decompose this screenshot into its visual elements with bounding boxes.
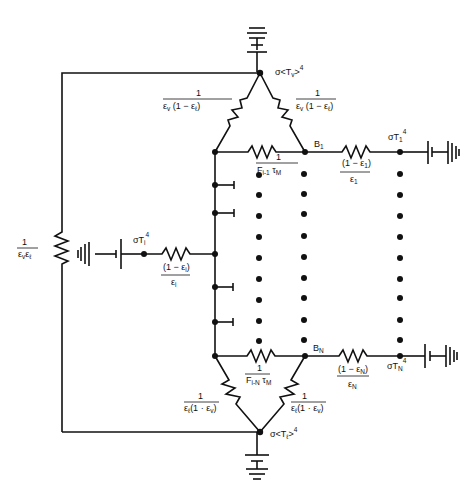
- tn-label: σTN4: [387, 357, 407, 372]
- ellipsis-dot: [397, 192, 403, 198]
- svg-text:1: 1: [302, 391, 307, 401]
- bottom-right-resistor-label: 1 εℓ(1 · εv): [291, 391, 326, 414]
- svg-text:1: 1: [22, 237, 27, 247]
- bn-to-tn-resistor-label: (1 − εN) εN: [337, 364, 369, 390]
- bottom-right-resistor: [260, 356, 305, 432]
- ellipsis-dot: [397, 234, 403, 240]
- top-horizontal-resistor: [215, 146, 305, 158]
- bottom-ground-icon: [245, 432, 269, 479]
- bottom-node-label: σ<Tℓ>4: [270, 426, 298, 440]
- ellipsis-dot: [397, 171, 403, 177]
- bottom-left-resistor: [215, 356, 260, 432]
- svg-text:εℓ(1 · εv): εℓ(1 · εv): [184, 403, 216, 414]
- ellipsis-dot: [301, 317, 307, 323]
- ellipsis-dot: [301, 171, 307, 177]
- left-branch-resistor: [144, 248, 215, 260]
- ellipsis-dot: [397, 317, 403, 323]
- ellipsis-dot: [397, 276, 403, 282]
- ellipsis-dot: [256, 297, 262, 303]
- bottom-left-resistor-label: 1 εℓ(1 · εv): [184, 391, 219, 414]
- svg-text:ε1: ε1: [350, 174, 358, 185]
- b1-label: B1: [314, 139, 324, 150]
- left-vertical-resistor: [55, 220, 68, 432]
- outer-left-wire-top: [62, 73, 260, 220]
- ellipsis-dot: [256, 276, 262, 282]
- svg-text:(1 − εN): (1 − εN): [338, 364, 368, 375]
- svg-text:(1 − εi): (1 − εi): [163, 262, 190, 273]
- top-right-resistor: [260, 73, 305, 152]
- svg-text:εv (1 − εℓ): εv (1 − εℓ): [296, 101, 333, 112]
- top-right-resistor-label: 1 εv (1 − εℓ): [296, 88, 336, 112]
- ellipsis-dot: [301, 233, 307, 239]
- ellipsis-dots: [256, 171, 403, 344]
- ellipsis-dot: [397, 213, 403, 219]
- svg-text:1: 1: [198, 391, 203, 401]
- svg-text:εvεℓ: εvεℓ: [18, 249, 32, 260]
- ellipsis-dot: [301, 275, 307, 281]
- top-horizontal-resistor-label: 1 Fi-1 τM: [256, 152, 298, 176]
- ellipsis-dot: [256, 172, 262, 178]
- ellipsis-dot: [301, 191, 307, 197]
- top-left-resistor: [215, 73, 260, 152]
- ellipsis-dot: [256, 213, 262, 219]
- ellipsis-dot: [301, 337, 307, 343]
- ellipsis-dot: [301, 211, 307, 217]
- ellipsis-dot: [397, 295, 403, 301]
- ellipsis-dot: [256, 255, 262, 261]
- svg-text:εN: εN: [348, 379, 357, 390]
- radiation-network-diagram: σ<Tv>4 1 εvεℓ 1 εv (1 − εℓ) 1 εv (1 − εℓ…: [0, 0, 476, 504]
- svg-text:1: 1: [315, 88, 320, 98]
- top-left-resistor-label: 1 εv (1 − εℓ): [163, 88, 232, 112]
- svg-text:εi: εi: [171, 277, 176, 288]
- t1-ground-icon: [400, 141, 459, 164]
- ellipsis-dot: [256, 234, 262, 240]
- top-node-label: σ<Tv>4: [275, 64, 304, 78]
- ellipsis-dot: [301, 295, 307, 301]
- left-vertical-resistor-label: 1 εvεℓ: [17, 237, 38, 260]
- bn-label: BN: [313, 343, 324, 354]
- bottom-horizontal-resistor-label: 1 Fi-N τM: [245, 363, 271, 386]
- ellipsis-dot: [256, 338, 262, 344]
- top-ground-icon: [247, 28, 267, 72]
- svg-text:1: 1: [276, 152, 281, 162]
- svg-text:Fi-N τM: Fi-N τM: [246, 375, 271, 386]
- bottom-horizontal-resistor: [215, 350, 305, 362]
- b1-to-t1-resistor-label: (1 − ε1) ε1: [340, 158, 371, 185]
- tn-ground-icon: [400, 344, 457, 368]
- svg-text:εℓ(1 · εv): εℓ(1 · εv): [291, 403, 323, 414]
- ellipsis-dot: [256, 318, 262, 324]
- left-source-label: σTi4: [133, 231, 150, 246]
- ellipsis-dot: [397, 255, 403, 261]
- t1-label: σT14: [388, 128, 407, 143]
- left-branch-resistor-label: (1 − εi) εi: [161, 262, 190, 288]
- svg-text:1: 1: [196, 88, 201, 98]
- ellipsis-dot: [301, 254, 307, 260]
- svg-text:εv (1 − εℓ): εv (1 − εℓ): [163, 101, 200, 112]
- svg-text:1: 1: [257, 363, 262, 373]
- ellipsis-dot: [256, 192, 262, 198]
- ellipsis-dot: [397, 337, 403, 343]
- svg-text:(1 − ε1): (1 − ε1): [342, 158, 371, 169]
